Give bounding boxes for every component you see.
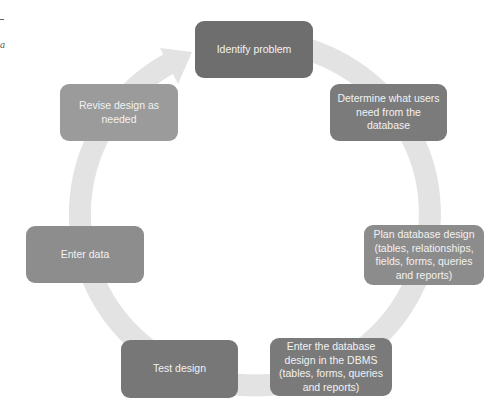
step-revise-design: Revise design as needed [60, 84, 178, 141]
step-enter-data: Enter data [26, 226, 144, 283]
step-label: Revise design as needed [66, 99, 172, 126]
step-test-design: Test design [121, 340, 238, 398]
step-enter-design-in-dbms: Enter the database design in the DBMS (t… [270, 338, 392, 396]
step-label: Enter data [61, 248, 109, 262]
step-identify-problem: Identify problem [195, 21, 313, 78]
step-label: Enter the database design in the DBMS (t… [276, 340, 386, 394]
step-label: Determine what users need from the datab… [336, 92, 441, 133]
step-label: Test design [153, 362, 206, 376]
step-plan-database-design: Plan database design (tables, relationsh… [364, 225, 484, 285]
step-label: Identify problem [217, 43, 292, 57]
step-label: Plan database design (tables, relationsh… [370, 228, 478, 282]
step-determine-user-needs: Determine what users need from the datab… [330, 84, 447, 141]
